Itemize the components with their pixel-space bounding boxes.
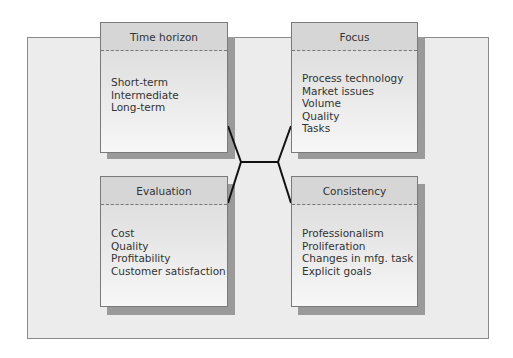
box-item-list: Short-term Intermediate Long-term <box>101 51 227 114</box>
list-item: Long-term <box>111 101 227 114</box>
list-item: Explicit goals <box>302 265 417 278</box>
box-title: Focus <box>292 23 417 51</box>
box-item-list: Process technology Market issues Volume … <box>292 51 417 135</box>
box-title: Consistency <box>292 177 417 205</box>
box-item-list: Professionalism Proliferation Changes in… <box>292 205 417 277</box>
list-item: Proliferation <box>302 240 417 253</box>
list-item: Short-term <box>111 76 227 89</box>
list-item: Changes in mfg. task <box>302 252 417 265</box>
box-title: Evaluation <box>101 177 227 205</box>
list-item: Tasks <box>302 122 417 135</box>
list-item: Volume <box>302 97 417 110</box>
time-horizon-box: Time horizon Short-term Intermediate Lon… <box>100 22 228 153</box>
list-item: Customer satisfaction <box>111 265 227 278</box>
list-item: Profitability <box>111 252 227 265</box>
box-item-list: Cost Quality Profitability Customer sati… <box>101 205 227 277</box>
list-item: Market issues <box>302 85 417 98</box>
connector-lines <box>0 0 513 358</box>
list-item: Professionalism <box>302 227 417 240</box>
list-item: Intermediate <box>111 89 227 102</box>
focus-box: Focus Process technology Market issues V… <box>291 22 418 153</box>
consistency-box: Consistency Professionalism Proliferatio… <box>291 176 418 307</box>
evaluation-box: Evaluation Cost Quality Profitability Cu… <box>100 176 228 307</box>
box-title: Time horizon <box>101 23 227 51</box>
list-item: Quality <box>302 110 417 123</box>
list-item: Cost <box>111 227 227 240</box>
list-item: Process technology <box>302 72 417 85</box>
list-item: Quality <box>111 240 227 253</box>
